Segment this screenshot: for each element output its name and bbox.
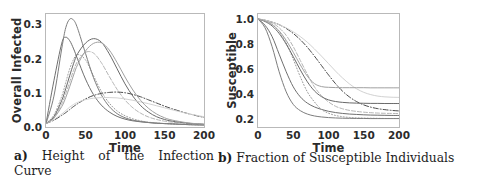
caption-panel-b: b) Fraction of Susceptible Individuals <box>218 150 484 166</box>
caption-b-text: Fraction of Susceptible Individuals <box>236 151 454 165</box>
series-line-er <box>46 54 204 125</box>
two-panel-figure: Overall Infected 0.00.10.20.3 0501001502… <box>0 0 489 184</box>
panel-a-lines <box>46 14 204 127</box>
y-tick-label: 0.3 <box>2 18 42 30</box>
x-tick-label: 200 <box>388 129 410 141</box>
caption-a-marker: a) <box>14 148 28 163</box>
y-tick-label: 0.6 <box>217 63 254 75</box>
y-tick-label: 1.0 <box>217 13 254 25</box>
y-tick-label: 0.8 <box>217 38 254 50</box>
caption-a-text: Height of the Infection Curve <box>14 149 214 178</box>
y-tick-label: 0.1 <box>2 87 42 99</box>
panel-b-susceptible-fraction: Susceptible 0.20.40.60.81.0 050100150200… <box>215 0 489 145</box>
x-tick-label: 100 <box>114 129 136 141</box>
panel-b-plot-area <box>257 13 400 128</box>
caption-panel-a: a) Height of the Infection Curve <box>14 148 214 179</box>
panel-a-plot-area <box>45 13 205 128</box>
series-line-cg <box>46 97 204 123</box>
y-tick-label: 0.2 <box>2 53 42 65</box>
x-tick-label: 50 <box>286 129 301 141</box>
x-tick-label: 0 <box>42 129 49 141</box>
panel-b-lines <box>258 14 399 127</box>
x-tick-label: 50 <box>78 129 93 141</box>
caption-b-marker: b) <box>218 150 232 165</box>
x-tick-label: 150 <box>353 129 375 141</box>
panel-a-infection-curve: Overall Infected 0.00.10.20.3 0501001502… <box>0 0 215 145</box>
x-tick-label: 150 <box>154 129 176 141</box>
x-tick-label: 200 <box>193 129 215 141</box>
y-tick-label: 0.2 <box>217 113 254 125</box>
y-tick-label: 0.4 <box>217 88 254 100</box>
x-tick-label: 100 <box>318 129 340 141</box>
y-tick-label: 0.0 <box>2 121 42 133</box>
x-tick-label: 0 <box>254 129 261 141</box>
